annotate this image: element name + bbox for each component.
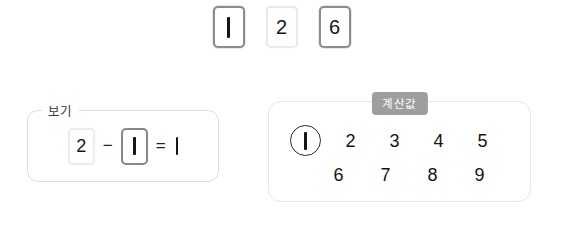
number-option-2[interactable]: 2 xyxy=(342,132,359,150)
number-option-3[interactable]: 3 xyxy=(386,132,403,150)
number-option-9[interactable]: 9 xyxy=(471,166,488,184)
equals-operator: = xyxy=(155,136,167,156)
example-equation: 2 − = xyxy=(28,111,218,181)
number-grid: 2 3 4 5 6 7 8 9 xyxy=(269,102,530,201)
number-card-6-label: 6 xyxy=(329,17,340,37)
digit-one-stroke xyxy=(133,137,136,155)
equation-operand-a-label: 2 xyxy=(76,136,86,157)
number-option-8[interactable]: 8 xyxy=(424,166,441,184)
number-option-7[interactable]: 7 xyxy=(377,166,394,184)
calculated-value-panel: 계산값 2 3 4 5 6 7 8 9 xyxy=(268,101,531,202)
number-row-1: 2 3 4 5 xyxy=(269,125,530,156)
number-option-5[interactable]: 5 xyxy=(474,132,491,150)
digit-one-stroke xyxy=(176,137,179,155)
equation-result xyxy=(174,137,179,155)
number-option-1[interactable] xyxy=(290,125,321,156)
number-card-6[interactable]: 6 xyxy=(319,6,351,48)
number-option-4[interactable]: 4 xyxy=(430,132,447,150)
number-card-2[interactable]: 2 xyxy=(266,6,298,48)
number-card-2-label: 2 xyxy=(276,17,287,37)
equation-operand-b-card[interactable] xyxy=(121,128,148,165)
minus-operator: − xyxy=(102,136,114,156)
equation-operand-a-card[interactable]: 2 xyxy=(68,128,95,165)
number-row-2: 6 7 8 9 xyxy=(269,166,530,184)
number-option-6[interactable]: 6 xyxy=(330,166,347,184)
number-card-tray: 2 6 xyxy=(0,6,563,48)
example-fieldset: 보기 2 − = xyxy=(27,110,219,182)
digit-one-stroke xyxy=(227,17,230,38)
digit-one-stroke xyxy=(304,132,307,150)
number-card-1[interactable] xyxy=(213,6,245,48)
